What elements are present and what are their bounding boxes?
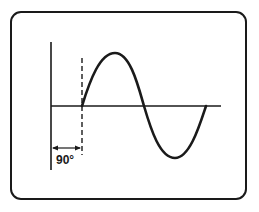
phase-label: 90° xyxy=(56,153,74,167)
arrowhead-left-icon xyxy=(52,146,58,151)
phase-offset-arrow xyxy=(52,146,81,151)
waveform-diagram: 90° xyxy=(0,0,259,212)
arrowhead-right-icon xyxy=(75,146,81,151)
